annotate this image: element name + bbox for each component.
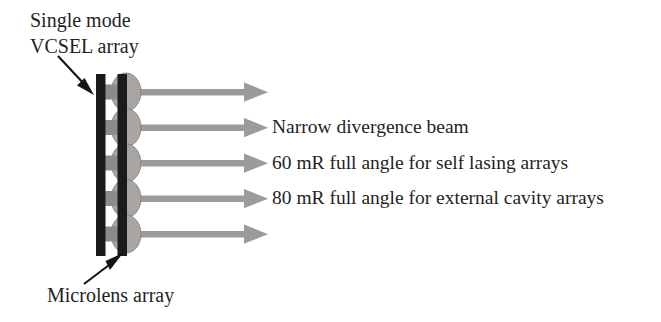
beam-3 <box>140 154 268 173</box>
microlens-array-label: Microlens array <box>47 283 174 309</box>
vcsel-microlens-diagram: Single mode VCSEL array Microlens array … <box>0 0 661 322</box>
microlens-pointer-arrow <box>84 253 123 284</box>
vcsel-array-label-line2: VCSEL array <box>30 34 139 60</box>
beam-1 <box>140 83 268 102</box>
vcsel-array-label: Single mode VCSEL array <box>30 8 139 59</box>
beam-2 <box>140 118 268 137</box>
vcsel-pointer-arrow <box>58 56 94 95</box>
vcsel-substrate-bar <box>96 74 106 256</box>
beam-group <box>140 83 268 244</box>
microlens-substrate-bar <box>118 74 128 256</box>
beam-caption-narrow-divergence: Narrow divergence beam <box>272 116 469 138</box>
beam-caption-self-lasing: 60 mR full angle for self lasing arrays <box>272 152 568 174</box>
beam-caption-external-cavity: 80 mR full angle for external cavity arr… <box>272 187 604 209</box>
beam-5 <box>140 225 268 244</box>
vcsel-emitters <box>104 85 118 242</box>
vcsel-array-label-line1: Single mode <box>30 8 139 34</box>
beam-4 <box>140 189 268 208</box>
